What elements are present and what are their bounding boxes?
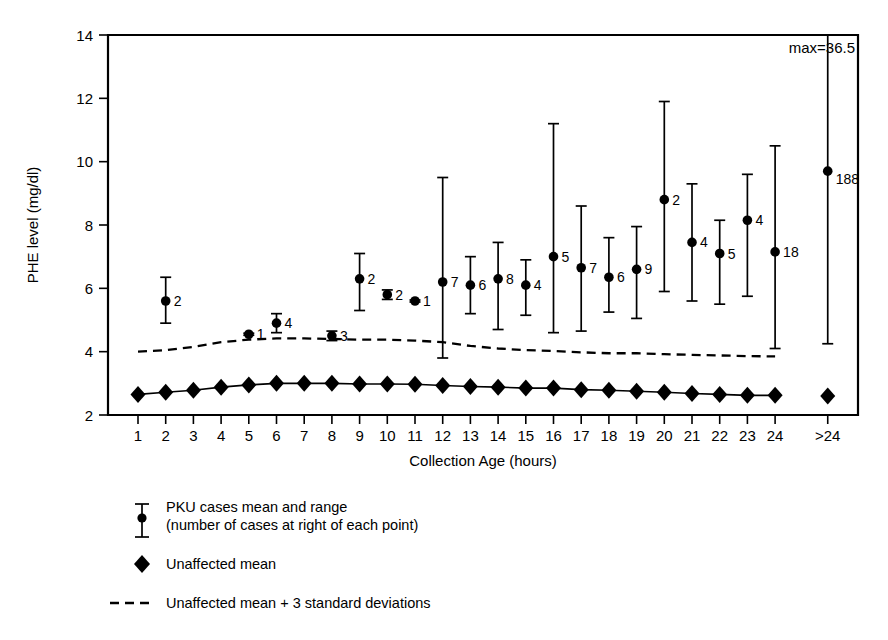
- unaffected-mean-marker: [601, 382, 616, 399]
- pku-point-hour-16: 5: [548, 124, 570, 333]
- y-tick-label-4: 4: [85, 343, 93, 360]
- y-tick-label-14: 14: [76, 27, 93, 44]
- pku-mean-marker: [493, 274, 503, 284]
- x-tick-label-20: 20: [656, 427, 673, 444]
- x-tick-label-12: 12: [434, 427, 451, 444]
- pku-phe-level-scatter-chart: 1412108642 PHE level (mg/dl) 12345678910…: [0, 0, 888, 640]
- pku-case-count-label: 2: [672, 192, 680, 208]
- pku-case-count-label: 2: [368, 271, 376, 287]
- pku-case-count-label: 18: [783, 244, 799, 260]
- unaffected-mean-marker: [491, 379, 506, 396]
- sd3-dashed-line: [138, 338, 775, 356]
- x-tick-label-22: 22: [711, 427, 728, 444]
- x-tick-label-13: 13: [462, 427, 479, 444]
- unaffected-mean-marker: [768, 387, 783, 404]
- pku-mean-marker: [660, 195, 670, 205]
- y-tick-label-12: 12: [76, 90, 93, 107]
- x-tick-label-21: 21: [684, 427, 701, 444]
- pku-point-hour-11: 1: [410, 293, 432, 309]
- x-tick-label-3: 3: [189, 427, 197, 444]
- pku-mean-marker: [466, 280, 476, 290]
- pku-mean-marker: [521, 280, 531, 290]
- x-tick-label-17: 17: [573, 427, 590, 444]
- x-axis-title: Collection Age (hours): [409, 452, 557, 469]
- pku-case-count-label: 4: [285, 315, 293, 331]
- pku-point-hour-18: 6: [603, 238, 625, 312]
- pku-mean-marker: [770, 247, 780, 257]
- legend-label-pku-line1: PKU cases mean and range: [166, 499, 347, 515]
- pku-mean-marker: [823, 166, 833, 176]
- pku-mean-marker: [715, 249, 725, 259]
- pku-case-count-label: 2: [395, 287, 403, 303]
- pku-case-count-label: 5: [562, 249, 570, 265]
- x-tick-label-11: 11: [407, 427, 423, 444]
- pku-case-count-label: 7: [589, 260, 597, 276]
- unaffected-mean-marker: [629, 383, 644, 400]
- x-tick-label-15: 15: [517, 427, 534, 444]
- pku-case-count-label: 7: [451, 274, 459, 290]
- x-tick-label-4: 4: [217, 427, 225, 444]
- pku-case-count-label: 4: [700, 234, 708, 250]
- unaffected-mean-marker: [186, 382, 201, 399]
- legend-label-pku-line2: (number of cases at right of each point): [166, 517, 418, 533]
- pku-point-hour-17: 7: [576, 206, 598, 331]
- pku-mean-marker: [383, 290, 393, 300]
- pku-point-hour-23: 4: [742, 174, 764, 296]
- pku-case-count-label: 8: [506, 271, 514, 287]
- pku-mean-marker: [549, 252, 559, 262]
- x-tick-label->24: >24: [815, 427, 840, 444]
- pku-mean-marker: [576, 263, 586, 273]
- pku-case-count-label: 4: [755, 212, 763, 228]
- legend-label-unaffected: Unaffected mean: [166, 556, 276, 572]
- pku-point-hour-22: 5: [714, 220, 736, 304]
- unaffected-mean-marker: [463, 378, 478, 395]
- pku-case-count-label: 2: [174, 293, 182, 309]
- pku-case-count-label: 4: [534, 277, 542, 293]
- legend-marker-pku: [135, 504, 149, 537]
- unaffected-mean-line: [138, 383, 775, 395]
- x-tick-label-6: 6: [272, 427, 280, 444]
- pku-case-count-label: 9: [645, 261, 653, 277]
- pku-mean-marker: [355, 274, 365, 284]
- pku-point-hour-20: 2: [659, 102, 681, 292]
- unaffected-mean-marker: [297, 375, 312, 392]
- unaffected-mean-marker: [657, 384, 672, 401]
- pku-mean-marker: [743, 215, 753, 225]
- pku-point-hour-19: 9: [631, 227, 653, 319]
- x-tick-label-14: 14: [490, 427, 507, 444]
- pku-mean-marker: [327, 331, 337, 341]
- legend-label-sd3: Unaffected mean + 3 standard deviations: [166, 595, 431, 611]
- unaffected-mean-marker: [546, 380, 561, 397]
- x-tick-label-7: 7: [300, 427, 308, 444]
- x-tick-label-19: 19: [628, 427, 645, 444]
- sd3-dashed-series: [138, 338, 775, 356]
- x-tick-label-9: 9: [355, 427, 363, 444]
- pku-point-hour-13: 6: [465, 257, 487, 314]
- unaffected-mean-marker: [712, 386, 727, 403]
- pku-cases-series: 214322176845769245418188: [160, 35, 859, 358]
- pku-case-count-label: 188: [836, 171, 860, 187]
- x-tick-label-18: 18: [601, 427, 618, 444]
- unaffected-mean-marker: [518, 380, 533, 397]
- x-tick-label-10: 10: [379, 427, 396, 444]
- pku-mean-marker: [244, 329, 254, 339]
- x-axis-ticks: 123456789101112131415161718192021222324>…: [134, 415, 841, 444]
- unaffected-mean-marker: [324, 375, 339, 392]
- y-axis-title: PHE level (mg/dl): [24, 167, 41, 284]
- pku-point-hour-8: 3: [326, 328, 348, 344]
- x-tick-label-23: 23: [739, 427, 756, 444]
- y-tick-label-10: 10: [76, 153, 93, 170]
- pku-point-hour-15: 4: [520, 260, 542, 315]
- plot-frame: [108, 35, 858, 415]
- unaffected-mean-marker: [435, 377, 450, 394]
- chart-legend: PKU cases mean and range (number of case…: [110, 499, 431, 611]
- pku-case-count-label: 1: [257, 326, 265, 342]
- pku-mean-marker: [687, 238, 697, 248]
- pku-mean-marker: [604, 272, 614, 282]
- unaffected-mean-marker: [820, 388, 835, 405]
- unaffected-mean-marker: [131, 386, 146, 403]
- pku-point-hour-2: 2: [160, 277, 182, 323]
- pku-point-hour-10: 2: [382, 287, 404, 303]
- x-tick-label-24: 24: [767, 427, 784, 444]
- unaffected-mean-marker: [380, 375, 395, 392]
